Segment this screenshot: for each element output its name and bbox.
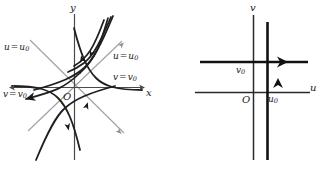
label-v0-value: v0 (236, 66, 245, 76)
equals-sign: = (118, 72, 128, 82)
asymptote-arrow-ne (118, 41, 126, 49)
right-panel-uv-plane: v u O v0 u0 (160, 0, 318, 171)
x-axis-label: x (146, 88, 152, 98)
uv-plane-svg (160, 0, 318, 171)
label-v-equals-v0-right: v=v0 (113, 73, 137, 83)
figure-root: y x O u=u0 u=u0 v=v0 v=v0 (0, 0, 318, 171)
label-u-equals-u0-upper-right: u=u0 (113, 52, 138, 62)
u-const-sub: 0 (25, 45, 29, 53)
equals-sign: = (119, 51, 129, 61)
arrow-u0-lower (83, 101, 90, 109)
y-axis-label: y (70, 3, 76, 13)
v0-sub: 0 (241, 68, 245, 76)
label-u0-value: u0 (268, 95, 278, 105)
origin-label-xy: O (63, 92, 71, 102)
u-const-sub: 0 (134, 54, 138, 62)
u0-sub: 0 (274, 97, 278, 105)
v-const-sub: 0 (133, 75, 137, 83)
v-axis-label: v (250, 3, 256, 13)
arrow-up-on-u0-line (273, 78, 283, 88)
u-var-text: u (4, 42, 10, 52)
origin-label-uv: O (242, 95, 250, 105)
u-var-text: u (113, 51, 119, 61)
equals-sign: = (8, 89, 18, 99)
left-panel-xy-plane: y x O u=u0 u=u0 v=v0 v=v0 (0, 0, 160, 171)
u-axis-label: u (310, 83, 316, 93)
equals-sign: = (10, 42, 20, 52)
curve-u0-lower (36, 86, 115, 160)
label-u-equals-u0-upper-left: u=u0 (4, 43, 29, 53)
v-const-sub: 0 (23, 92, 27, 100)
arrow-v0-left (65, 123, 72, 131)
xy-plane-svg (0, 0, 160, 171)
label-v-equals-v0-left: v=v0 (3, 90, 27, 100)
